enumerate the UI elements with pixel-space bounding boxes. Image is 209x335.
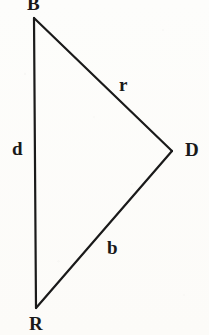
side-label-b: b [107, 238, 118, 257]
side-d-line [34, 18, 36, 308]
vertex-label-b: B [27, 0, 40, 13]
side-label-r: r [119, 75, 127, 94]
side-label-d: d [12, 139, 23, 158]
side-b-line [36, 151, 172, 308]
vertex-label-d: D [185, 140, 199, 159]
vertex-label-r: R [29, 314, 43, 333]
triangle-figure: B D R d r b [0, 0, 209, 335]
triangle-drawing [0, 0, 209, 335]
side-r-line [34, 18, 172, 151]
